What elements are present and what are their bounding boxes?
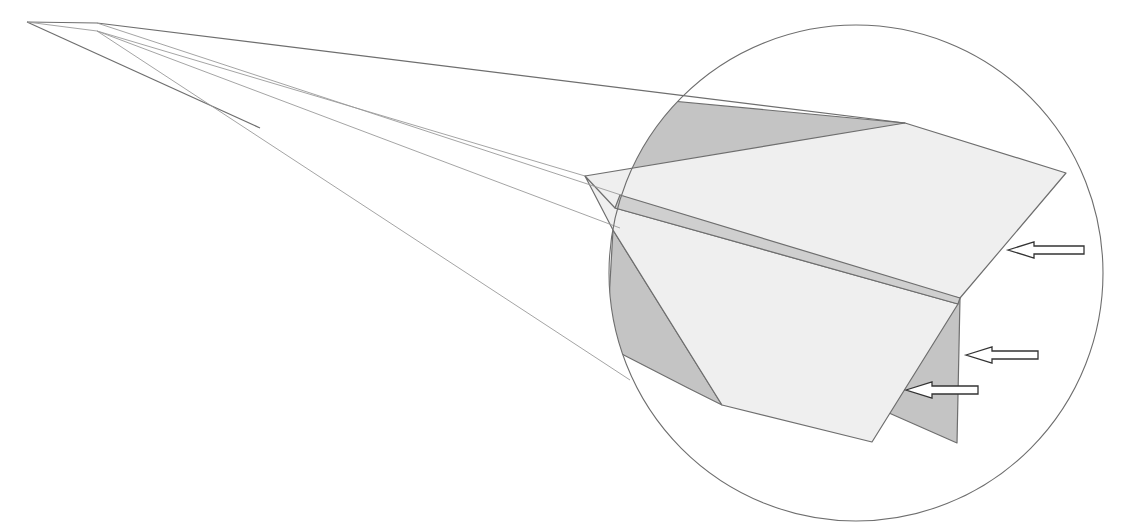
paper-airplane-diagram: [0, 0, 1123, 531]
fold-line-upper-edge: [27, 22, 905, 123]
fold-line-inner-fold-1: [27, 22, 585, 176]
airplane-shapes: [585, 98, 1066, 443]
fold-line-inner-fold-3: [97, 31, 620, 228]
arrow-fin-edge-icon: [966, 347, 1038, 363]
fold-line-under-edge: [97, 31, 630, 380]
diagram-canvas: [0, 0, 1123, 531]
arrow-wing-edge-icon: [1008, 242, 1084, 258]
fold-line-inner-fold-2: [97, 23, 624, 196]
